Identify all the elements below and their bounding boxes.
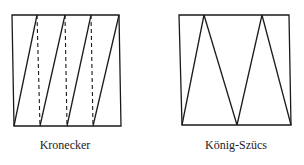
square-outline	[179, 15, 291, 125]
konig-szucs-figure	[179, 15, 291, 125]
konig-szucs-caption: König-Szücs	[205, 138, 267, 153]
solid-edge	[237, 15, 262, 125]
kronecker-caption: Kronecker	[40, 138, 91, 153]
dashed-edge	[37, 15, 40, 126]
solid-edge	[14, 15, 37, 126]
dashed-edge	[65, 15, 67, 126]
solid-edge	[93, 15, 119, 126]
kronecker-figure	[12, 15, 121, 126]
solid-edge	[67, 15, 91, 126]
solid-edge	[204, 15, 237, 125]
solid-edge	[40, 15, 65, 126]
dashed-edge	[91, 15, 93, 126]
solid-edge	[262, 15, 291, 125]
solid-edge	[182, 15, 204, 125]
